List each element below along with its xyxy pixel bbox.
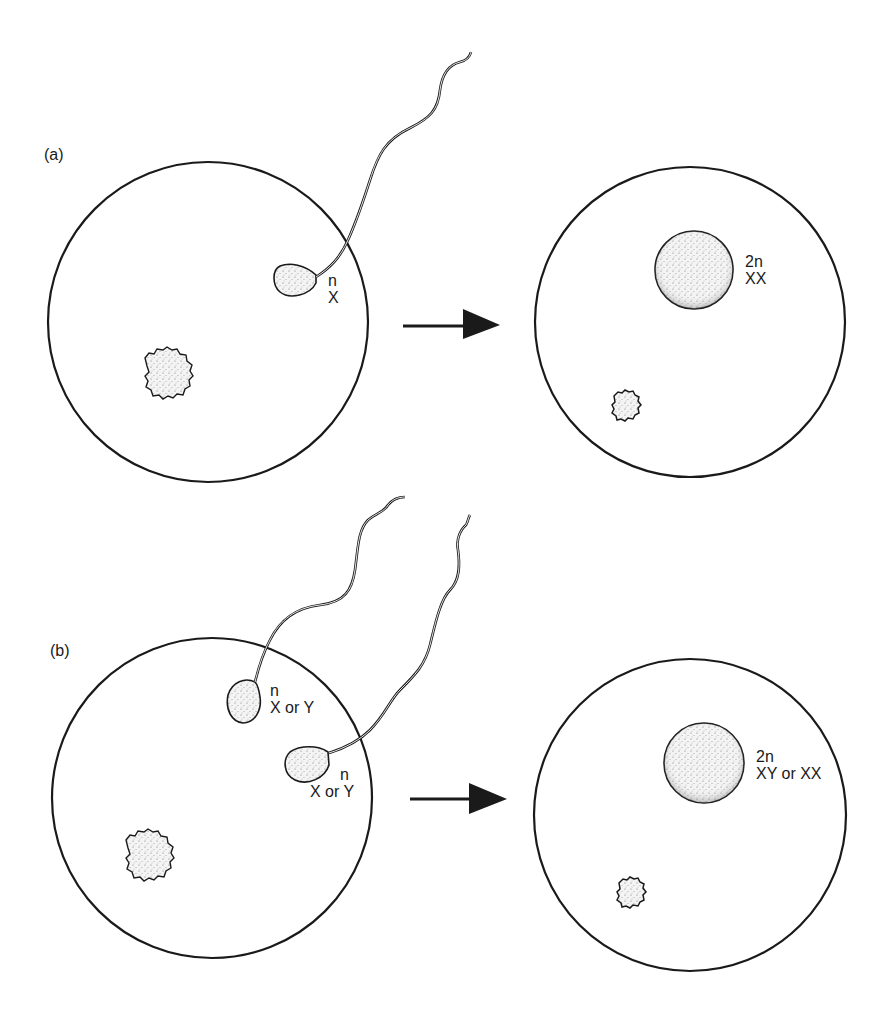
female-pronucleus-a (145, 347, 193, 399)
polar-body-a (612, 390, 641, 421)
zygote-nucleus-b (664, 723, 744, 803)
sperm-chromosome-b-1: X or Y (270, 699, 314, 716)
zygote-ploidy-a: 2n (745, 253, 766, 270)
sperm-chromosome-b-2: X or Y (310, 783, 354, 800)
female-pronucleus-b (126, 829, 174, 881)
sperm-a (274, 52, 471, 296)
fertilization-diagram (0, 0, 892, 1026)
panel-b (52, 497, 846, 971)
polar-body-b (617, 877, 646, 908)
panel-label-b: (b) (50, 642, 70, 660)
panel-a (48, 52, 845, 482)
zygote-nucleus-a (655, 231, 733, 309)
arrow-a (403, 309, 500, 339)
sperm-label-b-1: n X or Y (270, 682, 314, 716)
zygote-a (535, 167, 845, 477)
zygote-chromosome-a: XX (745, 270, 766, 287)
egg-cell-a (48, 162, 368, 482)
panel-label-a: (a) (44, 146, 64, 164)
zygote-ploidy-b: 2n (756, 748, 822, 765)
zygote-b (534, 659, 846, 971)
sperm-ploidy-b-2: n (310, 766, 354, 783)
zygote-chromosome-b: XY or XX (756, 765, 822, 782)
sperm-ploidy-b-1: n (270, 682, 314, 699)
sperm-b-2 (285, 515, 470, 782)
sperm-label-b-2: n X or Y (310, 766, 354, 800)
zygote-label-a: 2n XX (745, 253, 766, 287)
arrow-b (410, 783, 507, 814)
sperm-b-1 (227, 497, 405, 723)
sperm-chromosome-a: X (328, 289, 339, 306)
sperm-label-a: n X (328, 272, 339, 306)
zygote-label-b: 2n XY or XX (756, 748, 822, 782)
sperm-ploidy-a: n (328, 272, 339, 289)
